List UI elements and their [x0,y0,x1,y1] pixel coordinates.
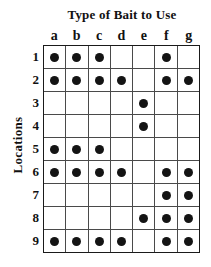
empty-cell-marker [162,122,171,131]
filled-dot-icon [50,145,59,154]
empty-cell-marker [50,122,59,131]
cell-9-g [178,230,199,252]
filled-dot-icon [72,76,81,85]
cell-8-b [66,207,88,229]
empty-cell-marker [95,99,104,108]
filled-dot-icon [162,214,171,223]
filled-dot-icon [72,237,81,246]
filled-dot-icon [184,76,193,85]
filled-dot-icon [184,214,193,223]
cell-7-f [155,184,177,206]
cell-6-b [66,161,88,183]
empty-cell-marker [95,191,104,200]
cell-4-f [155,115,177,137]
matrix-row [44,46,199,69]
empty-cell-marker [117,145,126,154]
cell-4-a [44,115,66,137]
row-header-1: 1 [25,45,40,68]
filled-dot-icon [95,76,104,85]
cell-2-e [133,69,155,91]
filled-dot-icon [50,76,59,85]
empty-cell-marker [139,237,148,246]
filled-dot-icon [117,237,126,246]
matrix-row [44,161,199,184]
empty-cell-marker [139,76,148,85]
cell-9-e [133,230,155,252]
matrix-grid [43,45,200,253]
filled-dot-icon [139,122,148,131]
column-header-row: abcdefg [43,28,200,44]
cell-4-b [66,115,88,137]
empty-cell-marker [117,214,126,223]
cell-8-a [44,207,66,229]
column-header-g: g [178,28,200,44]
cell-5-b [66,138,88,160]
cell-6-g [178,161,199,183]
filled-dot-icon [139,99,148,108]
empty-cell-marker [162,145,171,154]
column-header-a: a [43,28,65,44]
empty-cell-marker [95,214,104,223]
filled-dot-icon [139,214,148,223]
cell-9-f [155,230,177,252]
column-header-d: d [110,28,132,44]
column-header-c: c [88,28,110,44]
cell-4-c [89,115,111,137]
filled-dot-icon [72,53,81,62]
row-header-5: 5 [25,137,40,160]
empty-cell-marker [72,191,81,200]
cell-2-a [44,69,66,91]
cell-7-d [111,184,133,206]
empty-cell-marker [139,53,148,62]
cell-2-c [89,69,111,91]
empty-cell-marker [50,99,59,108]
filled-dot-icon [162,168,171,177]
cell-6-c [89,161,111,183]
empty-cell-marker [139,191,148,200]
cell-3-c [89,92,111,114]
empty-cell-marker [184,145,193,154]
empty-cell-marker [184,99,193,108]
cell-4-d [111,115,133,137]
empty-cell-marker [184,122,193,131]
row-header-8: 8 [25,207,40,230]
cell-4-e [133,115,155,137]
cell-3-a [44,92,66,114]
filled-dot-icon [162,53,171,62]
matrix-row [44,92,199,115]
filled-dot-icon [117,76,126,85]
filled-dot-icon [184,237,193,246]
empty-cell-marker [72,214,81,223]
filled-dot-icon [162,237,171,246]
cell-5-e [133,138,155,160]
row-header-6: 6 [25,161,40,184]
matrix-row [44,230,199,252]
row-header-9: 9 [25,230,40,253]
cell-1-c [89,46,111,68]
cell-8-d [111,207,133,229]
cell-5-a [44,138,66,160]
y-axis-label: Locations [10,90,26,200]
cell-2-f [155,69,177,91]
cell-1-b [66,46,88,68]
cell-5-f [155,138,177,160]
column-header-b: b [65,28,87,44]
cell-6-f [155,161,177,183]
matrix-row [44,69,199,92]
cell-7-a [44,184,66,206]
empty-cell-marker [72,122,81,131]
cell-5-c [89,138,111,160]
cell-9-d [111,230,133,252]
cell-1-d [111,46,133,68]
filled-dot-icon [50,237,59,246]
cell-2-d [111,69,133,91]
cell-2-b [66,69,88,91]
row-header-7: 7 [25,184,40,207]
filled-dot-icon [162,191,171,200]
column-header-f: f [155,28,177,44]
cell-9-c [89,230,111,252]
cell-6-e [133,161,155,183]
empty-cell-marker [162,99,171,108]
cell-5-d [111,138,133,160]
filled-dot-icon [95,145,104,154]
